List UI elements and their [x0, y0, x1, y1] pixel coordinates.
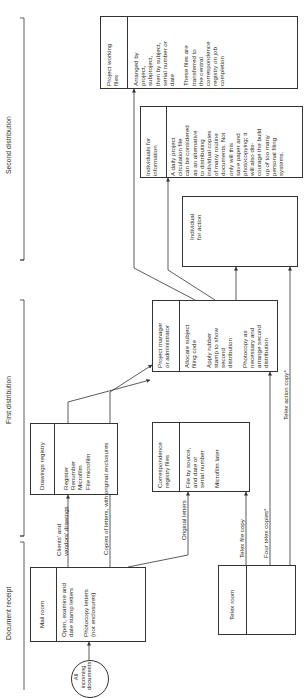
telex-room-title: Telex room: [228, 590, 235, 620]
flow-label-telex-action-copy: Telex action copy*: [282, 370, 289, 420]
project-working-files-title: Project working files: [105, 44, 119, 86]
project-manager-body: Allocate subject filing code Apply rubbe…: [183, 325, 269, 368]
individuals-for-information-title: Individuals for information: [144, 138, 158, 176]
individuals-for-information-body: A daily project circulation file can be …: [169, 125, 284, 176]
project-manager-title: Project manager or administrator: [156, 323, 170, 368]
drawings-registry-title: Drawings registry: [38, 442, 45, 490]
stage-document-receipt: Document receipt: [5, 587, 12, 640]
stage-second-distribution: Second distribution: [5, 116, 12, 174]
project-working-files-body: Arranged by project, subproject, then by…: [132, 41, 226, 86]
flow-label-telex-file-copy: Telex file copy: [238, 519, 245, 558]
mail-room-title: Mail room: [38, 601, 45, 628]
correspondence-registry-body: File by source, and date or serial numbe…: [184, 448, 220, 488]
correspondence-registry-title: Correspondence registry files: [156, 442, 170, 488]
flow-label-copies-letters: Copies of letters, with original enclosu…: [102, 443, 109, 555]
start-node-label: All incoming documents: [73, 664, 93, 690]
flow-label-four-telex-copies: Four telex copies*: [262, 508, 269, 558]
mail-room-body: Open, examine and date stamp letters Pho…: [60, 583, 96, 637]
flow-label-clients-drawings: Clients' and vendors' drawings: [55, 506, 69, 556]
flow-label-original-letters: Original letters: [180, 500, 187, 540]
individual-for-action-title: Individual for action: [188, 214, 202, 240]
drawings-registry-body: Register Renumber Microfilm File microfi…: [62, 454, 91, 490]
stage-first-distribution: First distribution: [5, 376, 12, 424]
